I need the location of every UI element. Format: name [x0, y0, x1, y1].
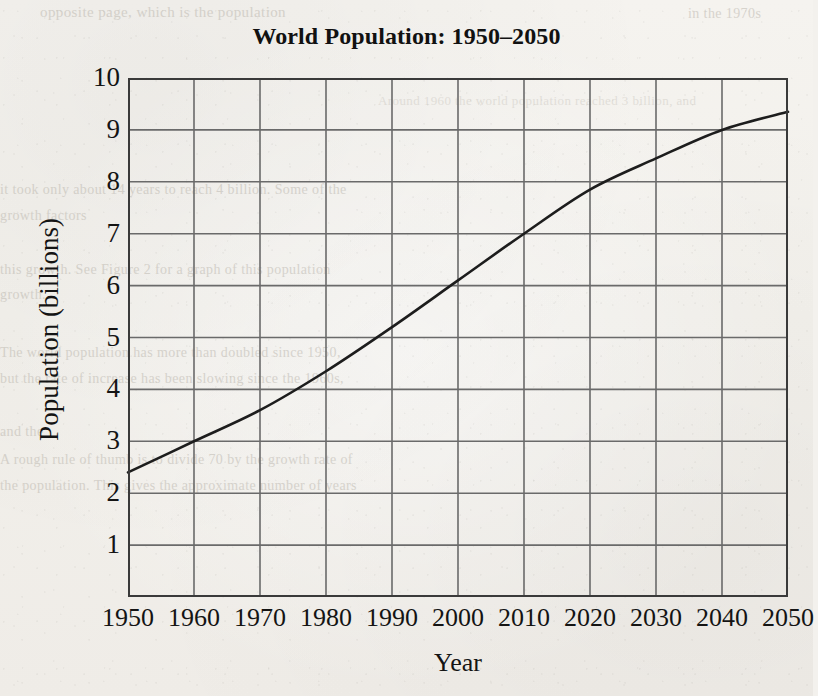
y-tick-label: 3	[10, 427, 120, 454]
x-axis-tick-labels: 1950196019701980199020002010202020302040…	[128, 605, 788, 639]
y-tick-label: 6	[10, 272, 120, 299]
y-tick-label: 9	[10, 116, 120, 143]
plot-area	[128, 78, 788, 597]
plot-frame	[128, 78, 788, 597]
y-tick-label: 4	[10, 375, 120, 402]
x-tick-label: 2050	[743, 605, 818, 631]
y-tick-label: 1	[10, 531, 120, 558]
chart-title: World Population: 1950–2050	[0, 23, 813, 50]
x-axis-title: Year	[128, 648, 788, 678]
y-tick-label: 8	[10, 168, 120, 195]
y-axis-title: Population (billions)	[34, 120, 65, 540]
y-tick-label: 5	[10, 324, 120, 351]
y-tick-label: 7	[10, 220, 120, 247]
y-tick-label: 2	[10, 479, 120, 506]
y-tick-label: 10	[10, 64, 120, 91]
